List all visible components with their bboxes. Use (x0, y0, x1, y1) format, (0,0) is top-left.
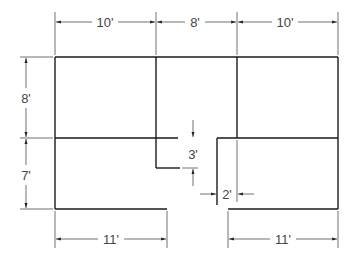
left-dimensions: 8' 7' (20, 57, 53, 209)
dim-top-3: 10' (277, 15, 294, 30)
floor-plan-diagram: 10' 8' 10' 8' 7' 11' 11' 3' (0, 0, 360, 258)
notch-dimensions: 3' 2' (182, 120, 254, 202)
dim-top-1: 10' (97, 15, 114, 30)
dim-bottom-right: 11' (275, 232, 291, 247)
dim-left-upper: 8' (21, 91, 31, 106)
top-dimensions: 10' 8' 10' (55, 12, 338, 55)
bottom-dimensions: 11' 11' (55, 211, 338, 248)
dim-top-2: 8' (190, 15, 200, 30)
dim-notch-height: 3' (188, 147, 198, 162)
dim-bottom-left: 11' (103, 232, 119, 247)
walls (55, 57, 338, 209)
dim-notch-width: 2' (222, 187, 232, 202)
dim-left-lower: 7' (21, 168, 31, 183)
